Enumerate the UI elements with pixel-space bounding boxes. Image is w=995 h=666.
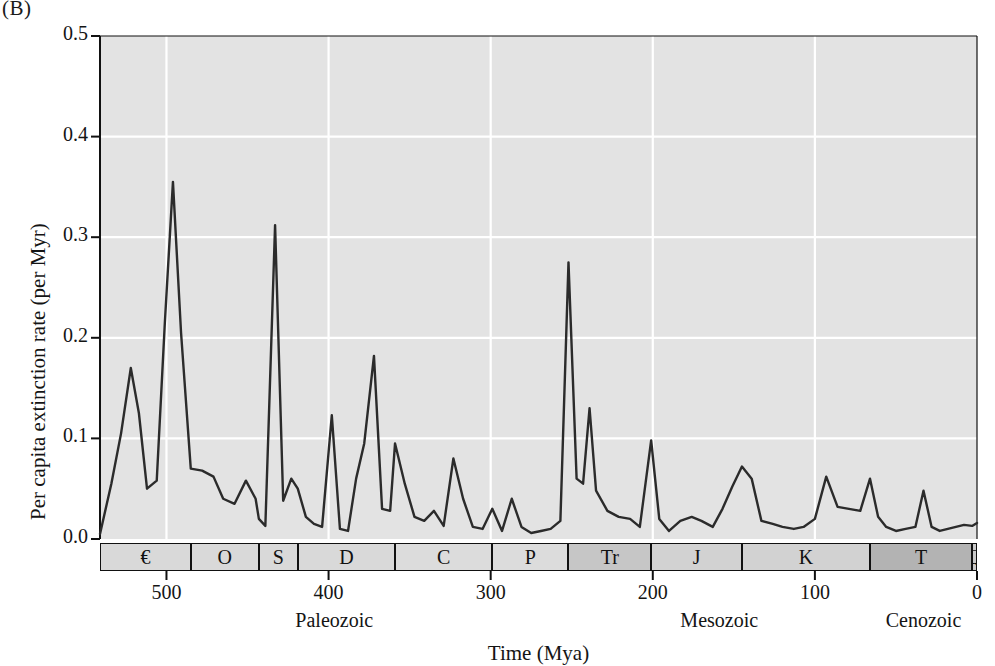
period-cell-carboniferous: C <box>395 543 492 571</box>
y-tick-label-2: 0.2 <box>32 324 88 347</box>
period-cell-ordovician: O <box>191 543 259 571</box>
period-cell-permian: P <box>492 543 568 571</box>
x-tick-label-1: 400 <box>289 581 369 604</box>
y-tick-label-3: 0.3 <box>32 223 88 246</box>
era-label-cenozoic: Cenozoic <box>824 609 995 632</box>
period-cell-quaternary: Q <box>972 543 977 571</box>
x-axis-title: Time (Mya) <box>389 641 689 666</box>
x-tick-label-2: 300 <box>451 581 531 604</box>
panel-label: (B) <box>2 0 32 21</box>
period-cell-triassic: Tr <box>568 543 651 571</box>
period-cell-silurian: S <box>259 543 298 571</box>
period-cell-devonian: D <box>298 543 395 571</box>
x-tick-label-0: 500 <box>126 581 206 604</box>
extinction-rate-line <box>100 182 977 534</box>
period-cell-cretaceous: K <box>742 543 870 571</box>
era-label-mesozoic: Mesozoic <box>619 609 819 632</box>
x-tick-label-3: 200 <box>613 581 693 604</box>
y-tick-label-0: 0.0 <box>32 525 88 548</box>
x-tick-label-4: 100 <box>775 581 855 604</box>
y-tick-label-4: 0.4 <box>32 123 88 146</box>
y-tick-label-5: 0.5 <box>32 22 88 45</box>
period-cell-tertiary: T <box>870 543 972 571</box>
y-tick-label-1: 0.1 <box>32 424 88 447</box>
plot-background <box>100 36 977 539</box>
period-cell-cambrian: € <box>100 543 191 571</box>
period-cell-jurassic: J <box>651 543 742 571</box>
era-label-paleozoic: Paleozoic <box>234 609 434 632</box>
x-tick-label-5: 0 <box>937 581 995 604</box>
